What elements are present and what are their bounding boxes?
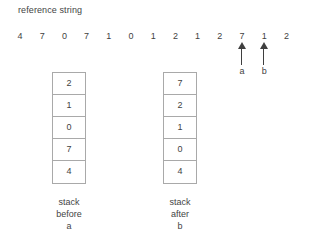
reference-string-cell: 2 bbox=[279, 29, 293, 43]
reference-string-cell: 4 bbox=[13, 29, 27, 43]
stack-cell: 4 bbox=[53, 161, 85, 183]
pointer-label: a bbox=[235, 66, 249, 77]
reference-string-cell: 0 bbox=[57, 29, 71, 43]
stack-cell: 0 bbox=[53, 117, 85, 139]
reference-string-cell: 0 bbox=[124, 29, 138, 43]
figure-title: reference string bbox=[18, 5, 82, 15]
arrow-up-icon bbox=[238, 42, 246, 49]
stack-cell: 2 bbox=[53, 73, 85, 95]
arrow-shaft bbox=[263, 48, 264, 65]
stack-cell: 7 bbox=[164, 73, 196, 95]
stack-cell: 7 bbox=[53, 139, 85, 161]
stack-before-a-caption: stackbeforea bbox=[24, 196, 114, 232]
reference-string-cell: 1 bbox=[146, 29, 160, 43]
reference-string-cell: 7 bbox=[80, 29, 94, 43]
caption-line: a bbox=[24, 220, 114, 232]
stack-cell: 1 bbox=[53, 95, 85, 117]
stack-cell: 2 bbox=[164, 95, 196, 117]
stack-cell: 0 bbox=[164, 139, 196, 161]
arrow-up-icon bbox=[260, 42, 268, 49]
reference-string-cell: 2 bbox=[213, 29, 227, 43]
caption-line: stack bbox=[135, 196, 225, 208]
reference-string-cell: 1 bbox=[257, 29, 271, 43]
reference-string-cell: 7 bbox=[35, 29, 49, 43]
arrow-shaft bbox=[241, 48, 242, 65]
caption-line: b bbox=[135, 220, 225, 232]
stack-after-b-caption: stackafterb bbox=[135, 196, 225, 232]
stack-before-a: 21074 bbox=[52, 72, 86, 184]
caption-line: stack bbox=[24, 196, 114, 208]
pointer-label: b bbox=[257, 66, 271, 77]
stack-after-b: 72104 bbox=[163, 72, 197, 184]
caption-line: before bbox=[24, 208, 114, 220]
stack-cell: 4 bbox=[164, 161, 196, 183]
reference-string-cell: 1 bbox=[191, 29, 205, 43]
reference-string-cell: 2 bbox=[168, 29, 182, 43]
reference-string-cell: 1 bbox=[102, 29, 116, 43]
stack-cell: 1 bbox=[164, 117, 196, 139]
lru-stack-figure: reference string 4707101212712 ab 21074 … bbox=[0, 0, 318, 245]
reference-string-cell: 7 bbox=[235, 29, 249, 43]
caption-line: after bbox=[135, 208, 225, 220]
reference-string-row: 4707101212712 bbox=[0, 29, 318, 43]
